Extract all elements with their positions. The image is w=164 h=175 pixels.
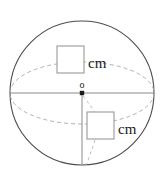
- geometry-figure: o cm cm: [0, 0, 164, 175]
- sphere-diagram-svg: o cm cm: [0, 0, 164, 175]
- radius-leader-arc-lower: [86, 140, 95, 166]
- lower-answer-box[interactable]: [87, 112, 114, 139]
- lower-unit-label: cm: [118, 121, 137, 137]
- upper-answer-box[interactable]: [57, 46, 84, 73]
- upper-unit-label: cm: [88, 55, 107, 71]
- center-point-dot: [80, 91, 84, 95]
- center-point-label: o: [80, 79, 85, 90]
